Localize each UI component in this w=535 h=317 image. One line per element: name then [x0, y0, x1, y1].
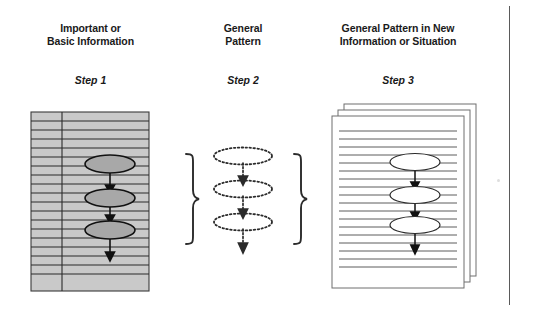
step3-document-stack: [332, 104, 476, 288]
step3-node-3: [390, 217, 440, 234]
step2-brace-right: [294, 154, 307, 244]
step3-node-2: [390, 187, 440, 204]
diagram-artwork: [0, 0, 535, 317]
step3-node-1: [390, 154, 440, 171]
step1-node-1: [85, 155, 135, 173]
step2-brace-left: [186, 154, 199, 244]
step3-page-front: [332, 116, 464, 288]
step3-nodes: [390, 154, 440, 234]
page-edge-rule: [509, 6, 510, 305]
step1-node-3: [85, 221, 135, 239]
scan-speck: [497, 179, 500, 182]
diagram-canvas: Important or Basic Information Step 1 Ge…: [0, 0, 535, 317]
step2-node-1: [214, 148, 272, 165]
step2-pattern: [186, 148, 307, 254]
step2-arrows: [239, 163, 248, 253]
step1-nodes: [85, 155, 135, 239]
step1-document: [31, 112, 149, 291]
step1-node-2: [85, 189, 135, 207]
